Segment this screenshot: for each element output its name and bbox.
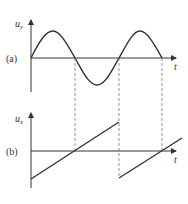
y-axis-a-label: uy <box>15 18 24 31</box>
dashed-guides <box>75 58 162 178</box>
panel-a-label: (a) <box>6 53 17 65</box>
y-axis-b-label: ux <box>15 113 24 126</box>
panel-b: (b) ux t <box>6 113 182 188</box>
waveform-diagram: (a) uy t (b) ux t <box>0 0 188 204</box>
x-axis-a-label: t <box>174 61 177 72</box>
panel-a: (a) uy t <box>6 18 177 92</box>
panel-b-label: (b) <box>6 146 18 158</box>
x-axis-b-label: t <box>174 154 177 165</box>
